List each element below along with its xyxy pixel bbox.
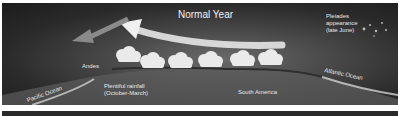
bottom-rule xyxy=(2,111,398,116)
rainfall-label-1: Plentiful rainfall xyxy=(104,83,145,90)
wind-arrow xyxy=(134,29,282,45)
diagram-title: Normal Year xyxy=(178,9,233,20)
pleiades-label-1: Pleiades xyxy=(326,13,349,20)
andes-label: Andes xyxy=(82,63,99,70)
pacific-arrow xyxy=(90,19,128,37)
pacific-arrow-head xyxy=(72,29,94,43)
diagram-panel: Normal Year Andes Pacific Ocean Plentifu… xyxy=(2,3,398,105)
rain-clouds xyxy=(116,46,283,68)
pleiades-label-3: (late June) xyxy=(326,27,354,34)
pleiades-stars xyxy=(363,22,387,37)
pleiades-label-2: appearance xyxy=(326,20,358,27)
south-america-label: South America xyxy=(238,89,277,96)
rainfall-label-2: (October-March) xyxy=(104,90,148,97)
